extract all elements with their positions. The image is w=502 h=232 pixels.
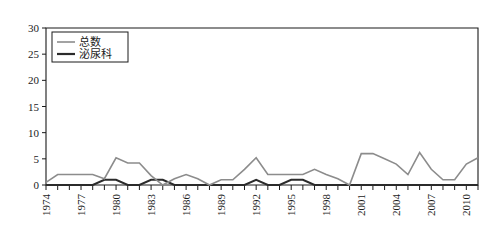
y-axis-tick-label: 25 xyxy=(28,48,40,60)
line-chart: 0510152025301974197719801983198619891992… xyxy=(0,0,502,232)
x-axis-tick-label: 2004 xyxy=(390,194,402,217)
x-axis-tick-label: 1980 xyxy=(110,194,122,217)
y-axis-tick-label: 30 xyxy=(28,22,40,34)
x-axis-tick-label: 1992 xyxy=(250,194,262,216)
x-axis-tick-label: 2001 xyxy=(355,194,367,216)
x-axis-tick-label: 1989 xyxy=(215,194,227,217)
y-axis-tick-label: 10 xyxy=(28,127,40,139)
x-axis-tick-label: 1995 xyxy=(285,194,297,217)
y-axis-tick-label: 15 xyxy=(28,101,40,113)
legend-label-total: 总数 xyxy=(79,35,101,49)
y-axis-tick-label: 20 xyxy=(28,74,40,86)
x-axis-tick-label: 2007 xyxy=(425,194,437,217)
x-axis-tick-label: 1998 xyxy=(320,194,332,217)
x-axis-tick-label: 1986 xyxy=(180,194,192,217)
y-axis-tick-label: 5 xyxy=(34,153,40,165)
x-axis-tick-label: 1983 xyxy=(145,194,157,217)
x-axis-tick-label: 2010 xyxy=(460,194,472,217)
y-axis-tick-label: 0 xyxy=(34,179,40,191)
chart-canvas: 0510152025301974197719801983198619891992… xyxy=(0,0,502,232)
x-axis-tick-label: 1977 xyxy=(75,194,87,217)
legend-label-urology: 泌尿科 xyxy=(79,47,112,61)
x-axis-tick-label: 1974 xyxy=(40,194,52,217)
series-line-urology xyxy=(46,180,478,185)
